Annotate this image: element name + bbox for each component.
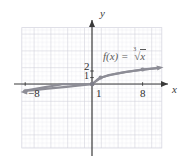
- graph-canvas: [0, 0, 186, 162]
- y-tick-label-2: 2: [84, 61, 90, 72]
- x-tick-label-8: 8: [140, 88, 146, 99]
- cube-root-function-figure: y x −8 1 8 1 2 f(x) = 3√x: [0, 0, 186, 162]
- function-equation-prefix: f(x) =: [103, 50, 131, 62]
- x-axis-label: x: [172, 84, 177, 95]
- radical-symbol: 3√x: [131, 50, 146, 62]
- function-equation-label: f(x) = 3√x: [103, 50, 146, 62]
- radical-index: 3: [133, 46, 136, 52]
- x-tick-label-1: 1: [96, 88, 102, 99]
- y-axis-label: y: [100, 8, 105, 19]
- radicand: x: [140, 49, 146, 62]
- x-tick-label-neg8: −8: [28, 88, 40, 99]
- y-tick-label-1: 1: [84, 71, 89, 81]
